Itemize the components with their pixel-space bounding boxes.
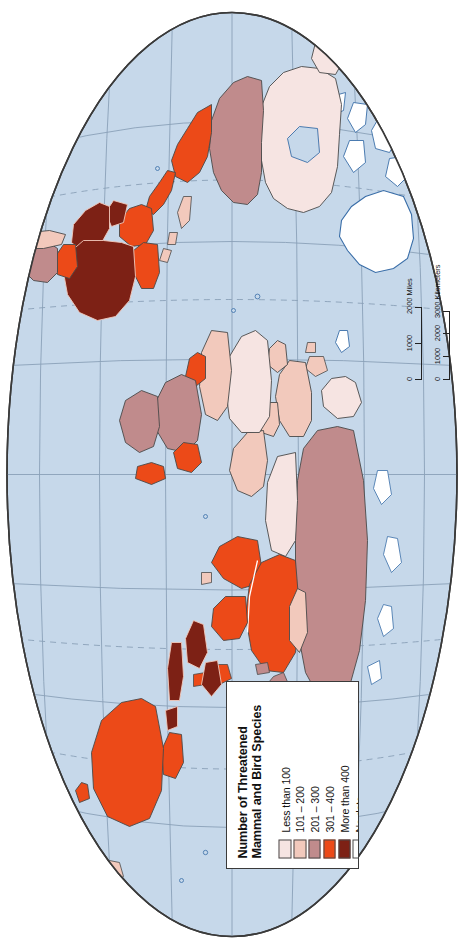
scale-label-miles-0: 0	[405, 377, 414, 381]
scale-tick-km-3	[443, 311, 450, 312]
legend-title-line2: Mammal and Bird Species	[249, 691, 263, 858]
scale-tick-km-2	[443, 333, 450, 334]
legend-item-3: 301 – 400	[322, 691, 336, 858]
map-figure: 0 1000 2000 Miles 0 1000 2000 3000 Kilom…	[0, 0, 463, 948]
legend-swatch-0	[278, 839, 290, 858]
scale-label-km-1: 1000	[433, 348, 442, 364]
scale-bar-kilometers: 0 1000 2000 3000 Kilometers	[433, 258, 459, 384]
scale-label-miles-unit: 2000 Miles	[405, 278, 414, 314]
legend-swatch-2	[308, 839, 320, 858]
legend-items: Less than 100 101 – 200 201 – 300 301 – …	[278, 691, 359, 858]
legend-swatch-1	[293, 839, 305, 858]
scale-tick-miles-2	[415, 307, 422, 308]
legend-item-4: More than 400	[337, 691, 351, 858]
legend-label-3: 301 – 400	[323, 786, 335, 832]
legend-label-4: More than 400	[338, 765, 350, 832]
scale-bar-miles: 0 1000 2000 Miles	[405, 258, 431, 384]
legend-label-2: 201 – 300	[308, 786, 320, 832]
scale-tick-miles-1	[415, 343, 422, 344]
scale-tick-miles-0	[415, 379, 422, 380]
scale-tick-km-1	[443, 356, 450, 357]
region-russia	[295, 426, 367, 700]
scale-tick-km-0	[443, 379, 450, 380]
legend-swatch-4	[338, 839, 350, 858]
legend-item-0: Less than 100	[278, 691, 292, 858]
scale-line-miles	[421, 308, 422, 380]
scale-label-miles-1: 1000	[405, 335, 414, 351]
legend-swatch-5	[352, 839, 359, 858]
region-sri-lanka	[201, 572, 211, 584]
region-chile	[19, 230, 65, 248]
map-legend: Number of Threatened Mammal and Bird Spe…	[226, 681, 359, 869]
scale-label-km-unit: 3000 Kilometers	[433, 265, 442, 318]
legend-label-5: No data	[353, 796, 359, 832]
legend-swatch-3	[323, 839, 335, 858]
legend-item-2: 201 – 300	[307, 691, 321, 858]
legend-item-1: 101 – 200	[293, 691, 307, 858]
legend-label-1: 101 – 200	[293, 786, 305, 832]
legend-title-line1: Number of Threatened	[235, 691, 249, 858]
legend-label-0: Less than 100	[279, 767, 291, 832]
scale-bar: 0 1000 2000 Miles 0 1000 2000 3000 Kilom…	[404, 258, 462, 384]
legend-item-5: No data	[352, 691, 359, 858]
scale-label-km-2: 2000	[433, 325, 442, 341]
region-new-zealand	[87, 860, 123, 892]
scale-label-km-0: 0	[433, 377, 442, 381]
scale-line-km	[449, 312, 450, 380]
